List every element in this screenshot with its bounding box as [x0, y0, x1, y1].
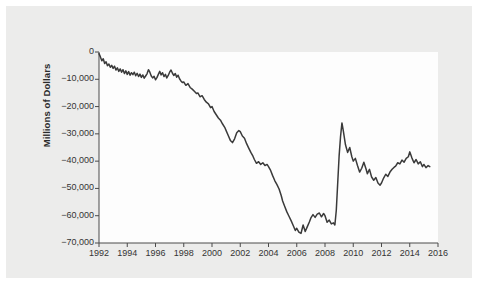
x-axis-tick-labels: 1992199419961998200020022004200620082010… [0, 0, 478, 284]
x-axis-tick-label: 2016 [418, 248, 458, 258]
chart-figure: 0−10,000−20,000−30,000−40,000−50,000−60,… [0, 0, 478, 284]
y-axis-title: Millions of Dollars [41, 41, 52, 171]
